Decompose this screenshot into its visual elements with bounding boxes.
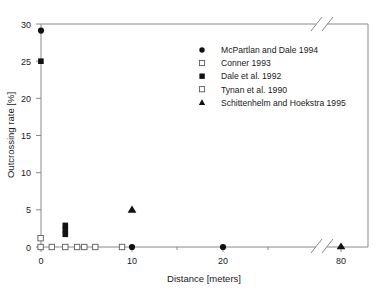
- data-point: [74, 244, 79, 249]
- plot-frame: [41, 24, 368, 247]
- series-schittenhelm-hoekstra-1995: [128, 206, 346, 250]
- legend-label-conner-1993: Conner 1993: [221, 58, 271, 68]
- y-tick-label-10: 10: [21, 168, 31, 178]
- series-dale-et-al-1992: [38, 58, 68, 237]
- legend-marker-filled-square-icon: [199, 74, 204, 79]
- data-point: [119, 244, 124, 249]
- chart-legend: McPartlan and Dale 1994 Conner 1993 Dale…: [199, 45, 346, 107]
- chart-canvas: 0 5 10 15 20 25 30 0 10 20 80: [0, 0, 380, 295]
- y-tick-label-0: 0: [26, 243, 31, 253]
- break-slash-bottom-2: [322, 239, 333, 253]
- data-point: [38, 58, 44, 64]
- data-point: [129, 244, 135, 250]
- x-axis-title: Distance [meters]: [167, 273, 241, 284]
- data-point: [63, 244, 68, 249]
- y-axis-ticks: 0 5 10 15 20 25 30: [21, 20, 41, 253]
- legend-marker-filled-circle-icon: [199, 47, 204, 52]
- legend-label-dale-et-al-1992: Dale et al. 1992: [221, 71, 281, 81]
- y-axis-title: Outcrossing rate [%]: [5, 92, 16, 178]
- x-tick-label-10: 10: [127, 256, 137, 266]
- data-point: [220, 244, 226, 250]
- scatter-chart-figure: 0 5 10 15 20 25 30 0 10 20 80: [0, 0, 380, 295]
- break-slash-bottom-1: [311, 239, 322, 253]
- data-point: [38, 236, 43, 241]
- data-point: [128, 206, 137, 213]
- data-point: [49, 244, 54, 249]
- legend-marker-open-square-icon: [199, 60, 204, 65]
- y-tick-label-30: 30: [21, 20, 31, 30]
- x-tick-label-0: 0: [38, 256, 43, 266]
- y-tick-label-15: 15: [21, 131, 31, 141]
- legend-marker-open-square-icon-2: [199, 87, 204, 92]
- y-tick-label-20: 20: [21, 94, 31, 104]
- y-tick-label-25: 25: [21, 57, 31, 67]
- x-tick-label-80: 80: [336, 256, 346, 266]
- legend-label-mcpartlan-dale-1994: McPartlan and Dale 1994: [221, 45, 318, 55]
- data-point: [337, 243, 346, 250]
- data-point: [38, 244, 43, 249]
- data-point: [93, 244, 98, 249]
- data-point: [82, 244, 87, 249]
- legend-label-schittenhelm-hoekstra-1995: Schittenhelm and Hoekstra 1995: [221, 98, 346, 108]
- data-point: [38, 28, 44, 34]
- data-point: [63, 232, 69, 238]
- legend-label-tynan-et-al-1990: Tynan et al. 1990: [221, 85, 287, 95]
- series-mcpartlan-dale-1994: [38, 28, 226, 251]
- y-tick-label-5: 5: [26, 205, 31, 215]
- x-tick-label-20: 20: [218, 256, 228, 266]
- legend-marker-filled-triangle-icon: [199, 99, 205, 105]
